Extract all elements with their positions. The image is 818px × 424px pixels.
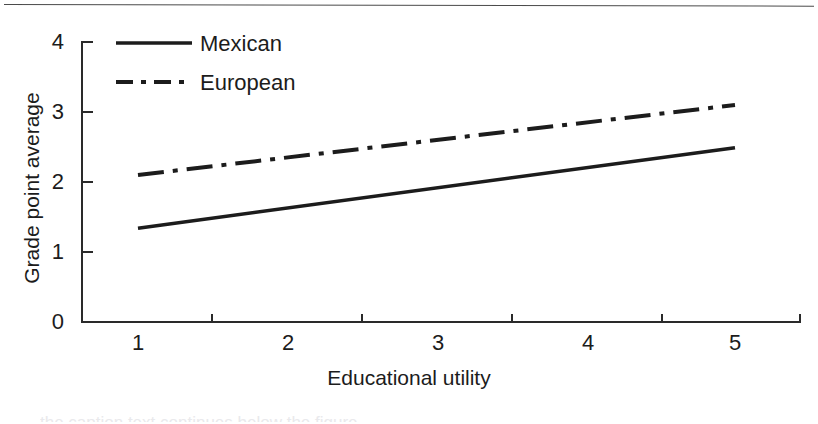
figure-container: 4 3 2 1 0 1 2 3 4 5 Educational utility … — [0, 0, 818, 424]
x-tick-label-5: 5 — [720, 332, 750, 354]
y-tick-marks — [82, 42, 93, 252]
series-line-mexican — [138, 148, 735, 229]
legend-item-mexican: Mexican — [112, 28, 372, 66]
legend: Mexican European — [112, 28, 372, 104]
x-tick-label-2: 2 — [273, 332, 303, 354]
legend-label-european: European — [200, 70, 295, 96]
x-tick-label-3: 3 — [423, 332, 453, 354]
y-tick-label-0: 0 — [38, 311, 64, 333]
legend-item-european: European — [112, 66, 372, 104]
y-axis-title: Grade point average — [20, 78, 44, 298]
x-tick-label-4: 4 — [573, 332, 603, 354]
x-tick-label-1: 1 — [123, 332, 153, 354]
x-axis-title: Educational utility — [0, 366, 818, 390]
x-tick-marks — [212, 314, 800, 322]
y-tick-label-4: 4 — [38, 31, 64, 53]
bottom-cut-text: the caption text continues below the fig… — [40, 414, 600, 422]
legend-label-mexican: Mexican — [200, 31, 282, 57]
series-line-european — [138, 105, 735, 175]
